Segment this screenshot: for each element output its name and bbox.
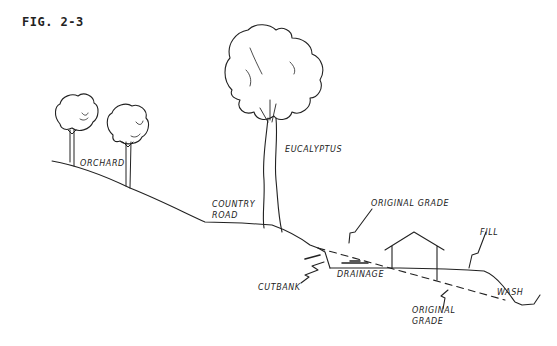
terrain-cross-section-diagram bbox=[0, 0, 557, 346]
label-original-grade-bottom-line1: ORIGINAL bbox=[412, 306, 456, 316]
cutbank-mark bbox=[305, 255, 320, 259]
label-cutbank: CUTBANK bbox=[258, 283, 301, 293]
orchard-tree-1 bbox=[55, 94, 98, 166]
label-drainage: DRAINAGE bbox=[337, 270, 384, 280]
house bbox=[385, 232, 444, 280]
orchard-tree-2 bbox=[107, 104, 148, 188]
label-original-grade-bottom-line2: GRADE bbox=[412, 317, 443, 327]
leader-cutbank bbox=[301, 262, 324, 283]
leader-original-grade-top bbox=[349, 209, 372, 243]
label-wash: WASH bbox=[497, 288, 523, 298]
label-country-road-line2: ROAD bbox=[212, 211, 238, 221]
label-country-road-line1: COUNTRY bbox=[212, 200, 255, 210]
label-orchard: ORCHARD bbox=[80, 159, 125, 169]
label-original-grade-top: ORIGINAL GRADE bbox=[371, 199, 449, 209]
label-eucalyptus: EUCALYPTUS bbox=[285, 145, 342, 155]
label-fill: FILL bbox=[480, 228, 498, 238]
cutbank-slope bbox=[318, 248, 330, 268]
